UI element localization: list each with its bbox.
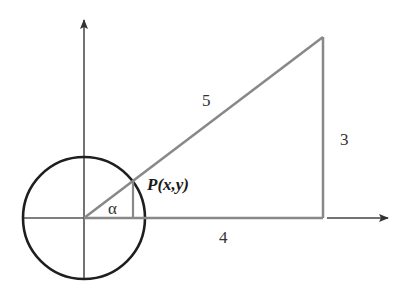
point-p-label: P(x,y) xyxy=(146,175,189,194)
hypotenuse-label: 5 xyxy=(202,91,211,110)
vertical-leg-label: 3 xyxy=(340,130,349,149)
angle-alpha-label: α xyxy=(108,199,117,218)
horizontal-leg-label: 4 xyxy=(219,228,228,247)
triangle-hypotenuse xyxy=(84,37,323,218)
diagram-canvas: 5 3 4 α P(x,y) xyxy=(0,0,409,292)
